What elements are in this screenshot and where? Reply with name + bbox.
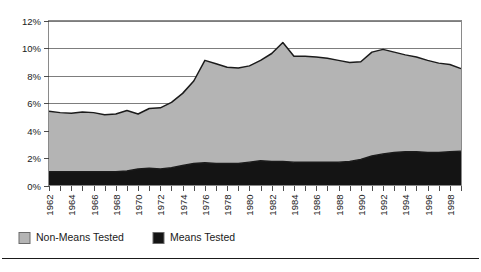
chart-figure: 0%2%4%6%8%10%12% 19621964196619681970197… — [0, 0, 481, 272]
x-tick-label-1998: 1998 — [445, 195, 456, 216]
y-tick-label-6: 6% — [27, 98, 41, 109]
x-tick-label-1990: 1990 — [356, 195, 367, 216]
y-tick-label-4: 4% — [27, 126, 41, 137]
y-tick-label-12: 12% — [22, 16, 42, 27]
x-tick-label-1966: 1966 — [89, 195, 100, 216]
legend-swatch — [153, 233, 164, 244]
x-tick-label-1980: 1980 — [244, 195, 255, 216]
x-tick-label-1982: 1982 — [267, 195, 278, 216]
x-tick-label-1962: 1962 — [44, 195, 55, 216]
x-tick-label-1992: 1992 — [378, 195, 389, 216]
legend-swatch — [19, 233, 30, 244]
x-tick-label-1964: 1964 — [66, 195, 77, 216]
x-tick-label-1968: 1968 — [111, 195, 122, 216]
y-tick-label-8: 8% — [27, 71, 41, 82]
x-tick-label-1986: 1986 — [311, 195, 322, 216]
y-tick-label-2: 2% — [27, 153, 41, 164]
y-tick-label-0: 0% — [27, 181, 41, 192]
x-tick-label-1976: 1976 — [200, 195, 211, 216]
legend-label: Means Tested — [170, 231, 235, 243]
x-tick-label-1994: 1994 — [400, 195, 411, 216]
x-tick-label-1996: 1996 — [423, 195, 434, 216]
legend-label: Non-Means Tested — [36, 231, 124, 243]
x-tick-label-1974: 1974 — [178, 195, 189, 216]
x-tick-label-1988: 1988 — [334, 195, 345, 216]
x-tick-label-1984: 1984 — [289, 195, 300, 216]
x-tick-label-1972: 1972 — [155, 195, 166, 216]
y-tick-label-10: 10% — [22, 43, 42, 54]
x-tick-label-1978: 1978 — [222, 195, 233, 216]
x-tick-label-1970: 1970 — [133, 195, 144, 216]
